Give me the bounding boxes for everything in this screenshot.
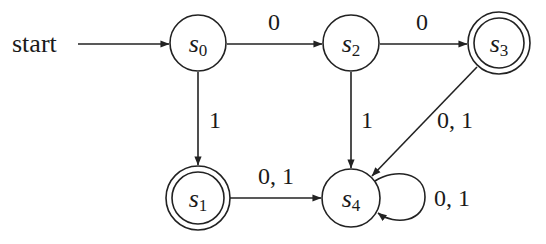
edge-label-s3-s4: 0, 1 [437,107,473,133]
edge-label-s4-s4: 0, 1 [434,185,470,211]
edge-label-s2-s3: 0 [416,9,428,35]
state-s0: s0 [170,15,226,71]
start-label: start [12,29,58,58]
state-s2: s2 [323,15,379,71]
state-s1-accepting: s1 [166,166,230,230]
edge-s3-s4: 0, 1 [372,67,477,176]
edge-label-s1-s4: 0, 1 [258,163,294,189]
state-s4: s4 [322,169,380,227]
edge-s2-s3: 0 [380,9,467,44]
edge-label-s0-s2: 0 [268,9,280,35]
edge-label-s2-s4: 1 [361,107,373,133]
edge-s0-s2: 0 [227,9,322,44]
edge-s4-s4-loop: 0, 1 [375,174,470,220]
edge-s1-s4: 0, 1 [230,163,321,198]
edge-s2-s4: 1 [351,72,373,168]
edge-s0-s1: 1 [198,72,221,165]
start-arrow: start [12,29,169,58]
edge-label-s0-s1: 1 [209,107,221,133]
fsa-diagram: start 0 1 0 1 0, 1 0, 1 0, 1 s0 s2 [0,0,546,244]
state-s3-accepting: s3 [468,12,530,74]
